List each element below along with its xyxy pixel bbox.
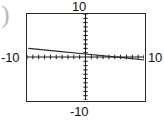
plot-stage: ) 10 -10 -10 10 bbox=[0, 0, 164, 122]
series-line-0 bbox=[29, 48, 144, 60]
axis-label-bottom: -10 bbox=[70, 104, 88, 119]
axis-label-left: -10 bbox=[1, 50, 19, 65]
axis-label-right: 10 bbox=[148, 50, 162, 65]
axis-label-top: 10 bbox=[72, 0, 86, 14]
brace-artifact-icon: ) bbox=[1, 2, 9, 28]
plot-canvas bbox=[27, 14, 144, 100]
plot-frame bbox=[26, 13, 146, 102]
